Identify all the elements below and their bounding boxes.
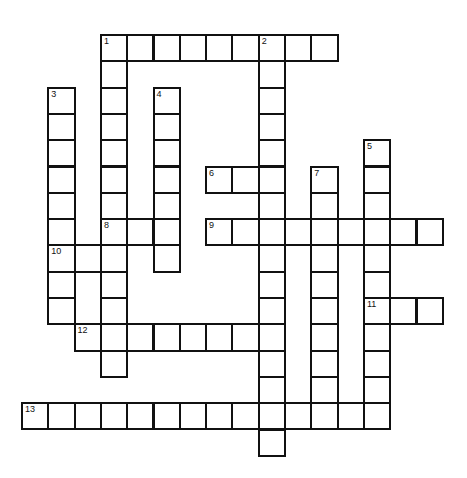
- crossword-cell[interactable]: [231, 323, 259, 351]
- crossword-cell[interactable]: [310, 218, 338, 246]
- crossword-cell[interactable]: [47, 218, 75, 246]
- crossword-cell[interactable]: [363, 166, 391, 194]
- crossword-cell[interactable]: [231, 218, 259, 246]
- crossword-cell[interactable]: [258, 376, 286, 404]
- crossword-cell[interactable]: [310, 192, 338, 220]
- crossword-cell[interactable]: [363, 376, 391, 404]
- crossword-cell[interactable]: [363, 192, 391, 220]
- crossword-cell[interactable]: [310, 350, 338, 378]
- crossword-cell[interactable]: [258, 271, 286, 299]
- crossword-cell[interactable]: 4: [153, 87, 181, 115]
- crossword-cell[interactable]: [153, 192, 181, 220]
- crossword-cell[interactable]: [363, 323, 391, 351]
- crossword-cell[interactable]: [284, 402, 312, 430]
- crossword-cell[interactable]: [231, 402, 259, 430]
- crossword-cell[interactable]: 3: [47, 87, 75, 115]
- crossword-cell[interactable]: [231, 34, 259, 62]
- crossword-cell[interactable]: [100, 192, 128, 220]
- crossword-cell[interactable]: [337, 402, 365, 430]
- crossword-cell[interactable]: [100, 244, 128, 272]
- crossword-cell[interactable]: [363, 218, 391, 246]
- crossword-cell[interactable]: [100, 113, 128, 141]
- crossword-cell[interactable]: [47, 166, 75, 194]
- crossword-cell[interactable]: [337, 218, 365, 246]
- crossword-cell[interactable]: 7: [310, 166, 338, 194]
- crossword-cell[interactable]: [205, 34, 233, 62]
- crossword-cell[interactable]: [284, 34, 312, 62]
- crossword-cell[interactable]: 8: [100, 218, 128, 246]
- crossword-cell[interactable]: [389, 297, 417, 325]
- crossword-cell[interactable]: [416, 297, 444, 325]
- crossword-cell[interactable]: [205, 323, 233, 351]
- crossword-cell[interactable]: 2: [258, 34, 286, 62]
- crossword-cell[interactable]: [258, 60, 286, 88]
- crossword-cell[interactable]: [258, 429, 286, 457]
- crossword-cell[interactable]: 10: [47, 244, 75, 272]
- crossword-cell[interactable]: [205, 402, 233, 430]
- crossword-cell[interactable]: [179, 34, 207, 62]
- crossword-cell[interactable]: 5: [363, 139, 391, 167]
- crossword-cell[interactable]: 12: [74, 323, 102, 351]
- crossword-cell[interactable]: [126, 402, 154, 430]
- crossword-cell[interactable]: [258, 218, 286, 246]
- crossword-cell[interactable]: [310, 244, 338, 272]
- crossword-cell[interactable]: [153, 113, 181, 141]
- crossword-cell[interactable]: [153, 244, 181, 272]
- crossword-cell[interactable]: [284, 218, 312, 246]
- crossword-cell[interactable]: [47, 271, 75, 299]
- crossword-cell[interactable]: [363, 402, 391, 430]
- crossword-cell[interactable]: [310, 297, 338, 325]
- crossword-cell[interactable]: [258, 297, 286, 325]
- crossword-cell[interactable]: [258, 402, 286, 430]
- crossword-cell[interactable]: [126, 218, 154, 246]
- crossword-cell[interactable]: [100, 350, 128, 378]
- crossword-cell[interactable]: [100, 166, 128, 194]
- crossword-cell[interactable]: [74, 244, 102, 272]
- crossword-cell[interactable]: [231, 166, 259, 194]
- crossword-cell[interactable]: [47, 297, 75, 325]
- crossword-cell[interactable]: [100, 87, 128, 115]
- crossword-cell[interactable]: [153, 166, 181, 194]
- crossword-cell[interactable]: [363, 350, 391, 378]
- crossword-cell[interactable]: [126, 323, 154, 351]
- crossword-cell[interactable]: [47, 402, 75, 430]
- crossword-cell[interactable]: [363, 271, 391, 299]
- crossword-cell[interactable]: [258, 87, 286, 115]
- crossword-cell[interactable]: [310, 34, 338, 62]
- crossword-cell[interactable]: [100, 139, 128, 167]
- crossword-cell[interactable]: [100, 60, 128, 88]
- crossword-cell[interactable]: [363, 244, 391, 272]
- crossword-cell[interactable]: [179, 323, 207, 351]
- crossword-cell[interactable]: [47, 192, 75, 220]
- crossword-cell[interactable]: [310, 376, 338, 404]
- crossword-cell[interactable]: [258, 192, 286, 220]
- crossword-cell[interactable]: [258, 166, 286, 194]
- crossword-cell[interactable]: [258, 113, 286, 141]
- crossword-cell[interactable]: [74, 402, 102, 430]
- crossword-cell[interactable]: [47, 139, 75, 167]
- crossword-cell[interactable]: 6: [205, 166, 233, 194]
- crossword-cell[interactable]: [100, 297, 128, 325]
- crossword-cell[interactable]: 11: [363, 297, 391, 325]
- crossword-cell[interactable]: 1: [100, 34, 128, 62]
- crossword-cell[interactable]: [100, 323, 128, 351]
- crossword-cell[interactable]: [258, 323, 286, 351]
- crossword-cell[interactable]: [310, 271, 338, 299]
- crossword-cell[interactable]: [258, 244, 286, 272]
- crossword-cell[interactable]: [126, 34, 154, 62]
- crossword-cell[interactable]: [389, 218, 417, 246]
- crossword-cell[interactable]: [310, 402, 338, 430]
- crossword-cell[interactable]: [416, 218, 444, 246]
- crossword-cell[interactable]: [153, 323, 181, 351]
- crossword-cell[interactable]: [179, 402, 207, 430]
- crossword-cell[interactable]: [310, 323, 338, 351]
- crossword-cell[interactable]: [258, 350, 286, 378]
- crossword-cell[interactable]: [153, 139, 181, 167]
- crossword-cell[interactable]: [153, 34, 181, 62]
- crossword-cell[interactable]: 13: [21, 402, 49, 430]
- crossword-cell[interactable]: [100, 271, 128, 299]
- crossword-cell[interactable]: [47, 113, 75, 141]
- crossword-cell[interactable]: [153, 218, 181, 246]
- crossword-cell[interactable]: [100, 402, 128, 430]
- crossword-cell[interactable]: 9: [205, 218, 233, 246]
